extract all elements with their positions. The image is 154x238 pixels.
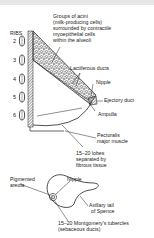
label-axillary-2: of Spence (91, 209, 114, 215)
label-ampulla: Ampulla (98, 112, 117, 118)
ribs-label: RIBS (10, 31, 22, 37)
frontal-nipple (51, 195, 55, 199)
breast-contour (33, 102, 92, 126)
rib-number-4: 4 (13, 76, 16, 82)
ribs (19, 36, 24, 120)
rib-number-5: 5 (13, 94, 16, 100)
label-pectoralis-2: major muscle (97, 139, 128, 145)
label-ejectory-duct: Ejectory duct (104, 98, 134, 104)
label-areola-2: areola (10, 183, 24, 189)
chest-wall (28, 31, 33, 127)
rib-number-3: 3 (13, 57, 16, 63)
rib-number-6: 6 (13, 112, 16, 118)
label-lactiferous-ducts: Lactiferous ducts (70, 66, 109, 72)
label-nipple-front: Nipple (67, 177, 82, 183)
label-nipple-side: Nipple (96, 80, 111, 86)
rib-number-2: 2 (13, 38, 16, 44)
label-lobes-3: fibrous tissue (76, 163, 107, 169)
pectoralis-line (30, 127, 64, 131)
label-montgomery-2: (sebaceous ducts) (58, 227, 100, 233)
label-acini-5: within the alveoli (53, 38, 91, 44)
